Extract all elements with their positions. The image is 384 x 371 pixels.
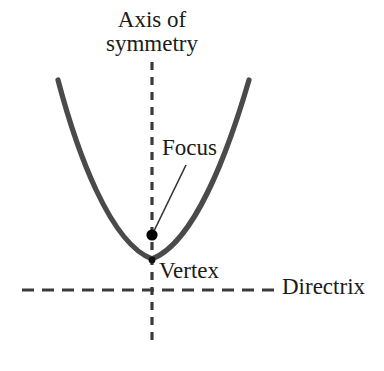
axis-of-symmetry-label-line2: symmetry bbox=[0, 32, 304, 56]
focus-leader-line bbox=[154, 165, 186, 231]
vertex-label: Vertex bbox=[159, 259, 219, 283]
directrix-label: Directrix bbox=[282, 275, 365, 299]
focus-point bbox=[146, 229, 157, 240]
axis-of-symmetry-label: Axis of symmetry bbox=[0, 8, 304, 56]
axis-of-symmetry-label-line1: Axis of bbox=[0, 8, 304, 32]
vertex-point bbox=[149, 257, 156, 264]
focus-label: Focus bbox=[162, 136, 217, 160]
